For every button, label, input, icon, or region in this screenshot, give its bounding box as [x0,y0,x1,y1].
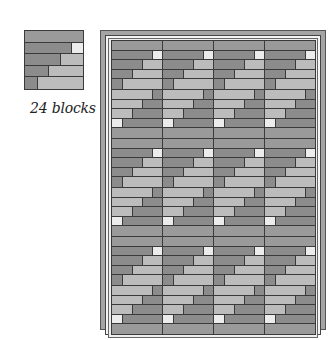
dark-patch [265,226,315,236]
dark-patch [265,177,275,187]
dark-patch [244,198,264,207]
dark-patch [305,286,315,295]
dark-patch [163,237,213,246]
dark-patch [224,315,264,324]
white-patch [152,149,162,158]
block-strip [112,119,162,129]
dark-patch [214,158,244,167]
dark-patch [265,266,285,275]
quilt-block [111,236,163,286]
dark-patch [265,168,285,177]
white-patch [152,247,162,256]
dark-patch [163,149,203,158]
dark-patch [183,109,213,118]
dark-patch [275,217,315,226]
quilt-block [111,187,163,237]
dark-patch [25,31,83,42]
block-strip [112,128,162,138]
block-strip [163,188,213,198]
dark-patch [112,149,152,158]
block-strip [265,226,315,236]
block-strip [25,31,83,43]
light-patch [163,90,203,99]
light-patch [122,177,162,187]
block-strip [265,324,315,334]
quilt-block [264,138,316,188]
block-strip [265,109,315,119]
dark-patch [305,188,315,197]
block-strip [214,119,264,129]
block-strip [112,324,162,334]
block-strip [214,217,264,227]
quilt-block [264,187,316,237]
block-count-caption: 24 blocks [30,100,96,116]
quilt-block [213,138,265,188]
light-patch [163,207,183,216]
white-patch [305,51,315,60]
dark-patch [112,79,122,89]
white-patch [152,51,162,60]
block-strip [265,305,315,315]
light-patch [37,77,83,89]
light-patch [265,109,285,118]
light-patch [275,177,315,187]
white-patch [214,315,224,324]
dark-patch [254,90,264,99]
dark-patch [193,296,213,305]
dark-patch [112,51,152,60]
dark-patch [234,207,264,216]
block-strip [163,100,213,110]
block-strip [214,60,264,70]
block-strip [214,188,264,198]
block-strip [265,139,315,149]
light-patch [214,305,234,314]
light-patch [193,60,213,69]
block-strip [214,100,264,110]
block-strip [265,168,315,178]
block-strip [265,286,315,296]
block-strip [214,324,264,334]
dark-patch [275,315,315,324]
dark-patch [214,60,244,69]
light-patch [60,54,83,65]
block-strip [112,41,162,51]
light-patch [163,188,203,197]
block-strip [112,51,162,61]
light-patch [112,207,132,216]
light-patch [112,109,132,118]
block-strip [112,275,162,285]
light-patch [295,158,315,167]
block-strip [265,90,315,100]
dark-patch [265,158,295,167]
block-strip [163,41,213,51]
dark-patch [163,128,213,138]
dark-patch [214,324,264,334]
light-patch [163,296,193,305]
quilt-block [162,285,214,335]
dark-patch [265,149,305,158]
dark-patch [295,100,315,109]
dark-patch [112,177,122,187]
white-patch [265,315,275,324]
dark-patch [305,90,315,99]
dark-patch [112,128,162,138]
dark-patch [234,109,264,118]
block-strip [163,237,213,247]
light-patch [132,266,162,275]
quilt-block [162,40,214,90]
dark-patch [163,226,213,236]
block-strip [265,149,315,159]
block-strip [163,51,213,61]
light-patch [214,286,254,295]
light-patch [112,286,152,295]
dark-patch [214,177,224,187]
quilt-block [264,40,316,90]
dark-patch [163,79,173,89]
white-patch [254,51,264,60]
block-strip [163,286,213,296]
block-strip [265,60,315,70]
dark-patch [265,237,315,246]
block-strip [163,90,213,100]
dark-patch [142,100,162,109]
quilt-block [24,30,84,90]
